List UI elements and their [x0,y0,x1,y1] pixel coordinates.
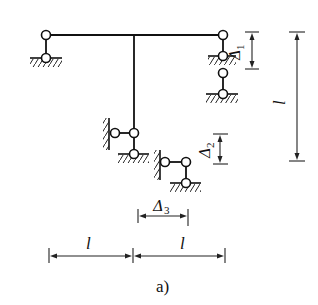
delta3-subscript: 3 [164,204,170,216]
hinge-icon [219,90,228,99]
delta1-subscript: 1 [234,45,246,51]
figure-caption: a) [156,277,169,296]
stem-support [103,118,149,163]
hinge-icon [182,158,191,167]
hinge-icon [182,179,191,188]
hinge-icon [219,69,228,78]
left-span-dimension: l [49,234,133,263]
structural-diagram: Δ 1 Δ 2 Δ 3 l [0,0,318,305]
hinge-icon [42,31,51,40]
hinge-icon [161,158,170,167]
left-span-label: l [86,234,91,253]
delta2-subscript: 2 [204,143,216,149]
delta3-dimension: Δ 3 [138,197,188,226]
height-dimension: l [270,32,305,161]
height-label: l [270,100,289,105]
right-span-dimension: l [134,234,225,263]
delta2-dimension: Δ 2 [196,134,228,164]
delta3-label: Δ [152,197,164,215]
left-link-support [30,31,62,68]
hinge-icon [111,129,120,138]
hinge-icon [42,54,51,63]
right-span-label: l [180,234,185,253]
right-lower-link-support [206,69,238,104]
hinge-icon [130,129,139,138]
hinge-icon [130,150,139,159]
hinge-icon [219,31,228,40]
displaced-stem-support [154,150,201,192]
